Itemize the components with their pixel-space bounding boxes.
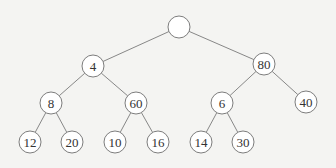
tree-node-n30: 30 <box>232 131 254 153</box>
edge-n60-n16 <box>141 113 152 133</box>
node-label: 14 <box>195 135 209 150</box>
node-label: 40 <box>300 95 313 110</box>
edge-n80-n40 <box>272 71 298 94</box>
tree-nodes: 480860640122010161430 <box>19 16 317 153</box>
edge-n6-n30 <box>227 113 238 133</box>
node-label: 16 <box>152 135 166 150</box>
edge-n60-n10 <box>120 113 131 133</box>
edge-root-n4 <box>103 32 169 62</box>
node-label: 30 <box>237 135 250 150</box>
edge-n4-n8 <box>59 73 84 95</box>
node-label: 8 <box>48 96 55 111</box>
node-label: 10 <box>109 135 122 150</box>
tree-edges <box>35 31 298 132</box>
tree-node-n8: 8 <box>40 92 62 114</box>
tree-node-n80: 80 <box>253 53 275 75</box>
tree-node-root <box>168 16 190 38</box>
tree-node-n14: 14 <box>190 131 212 153</box>
tree-node-n40: 40 <box>295 91 317 113</box>
node-circle <box>168 16 190 38</box>
tree-node-n16: 16 <box>147 131 169 153</box>
edge-n80-n6 <box>230 71 256 95</box>
node-label: 60 <box>130 96 143 111</box>
node-label: 6 <box>219 96 226 111</box>
binary-tree-diagram: 480860640122010161430 <box>0 0 336 168</box>
edge-n4-n60 <box>101 73 127 96</box>
node-label: 12 <box>24 135 37 150</box>
tree-node-n20: 20 <box>61 131 83 153</box>
tree-node-n4: 4 <box>82 55 104 77</box>
tree-node-n6: 6 <box>211 92 233 114</box>
node-label: 20 <box>66 135 79 150</box>
node-label: 4 <box>90 59 97 74</box>
tree-node-n10: 10 <box>104 131 126 153</box>
edge-n8-n20 <box>56 113 67 133</box>
edge-root-n80 <box>189 31 254 59</box>
tree-node-n12: 12 <box>19 131 41 153</box>
tree-node-n60: 60 <box>125 92 147 114</box>
edge-n6-n14 <box>206 113 217 133</box>
node-label: 80 <box>258 57 271 72</box>
edge-n8-n12 <box>35 113 46 133</box>
